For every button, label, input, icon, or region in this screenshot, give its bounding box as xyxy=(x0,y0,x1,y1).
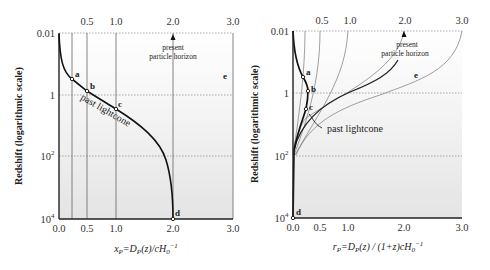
right-point-b xyxy=(306,89,309,92)
right-ytick-100-exp: 2 xyxy=(285,149,289,157)
left-xtick-0.5: 0.5 xyxy=(80,223,93,234)
left-label-a: a xyxy=(75,69,80,79)
left-ytick-1: 1 xyxy=(50,90,55,101)
right-ytick-1: 1 xyxy=(284,88,289,99)
right-xtick-2.0: 2.0 xyxy=(397,222,410,233)
right-annotation-particle-horizon: particle horizon xyxy=(381,49,429,58)
right-xtick-0.0: 0.0 xyxy=(286,222,299,233)
right-ytick-10000-exp: 4 xyxy=(285,211,289,219)
right-xtick-0.5: 0.5 xyxy=(313,222,326,233)
right-top-tick-1.0: 1.0 xyxy=(343,15,356,26)
right-label-d: d xyxy=(296,207,301,217)
right-annotation-present: present xyxy=(396,40,419,49)
left-xtick-0.0: 0.0 xyxy=(52,223,65,234)
right-ytick-100: 10 xyxy=(275,151,286,162)
left-x-axis-label: xP=DP(z)/cH0−1 xyxy=(113,242,178,256)
right-ytick-0.01: 0.01 xyxy=(271,26,289,37)
right-point-a xyxy=(301,75,304,78)
right-label-e: e xyxy=(414,70,418,80)
left-ytick-10000: 10 xyxy=(41,214,52,225)
right-label-a: a xyxy=(306,67,311,77)
left-label-b: b xyxy=(90,81,95,91)
left-ytick-100: 10 xyxy=(41,151,52,162)
left-label-c: c xyxy=(118,99,122,109)
left-top-tick-2.0: 2.0 xyxy=(166,16,179,27)
left-top-tick-3.0: 3.0 xyxy=(226,16,239,27)
left-xtick-1.0: 1.0 xyxy=(109,223,122,234)
right-label-c: c xyxy=(309,102,313,112)
left-label-e: e xyxy=(223,71,227,81)
left-point-a xyxy=(70,77,73,80)
right-x-axis-label: rP=DP(z) / (1+z)cH0−1 xyxy=(333,240,423,254)
left-plot-background xyxy=(59,33,233,219)
right-top-tick-2.0: 2.0 xyxy=(398,15,411,26)
right-y-axis-label: Redshift (logarithmic scale) xyxy=(249,65,261,183)
left-y-axis-label: Redshift (logarithmic scale) xyxy=(13,67,25,185)
right-point-c xyxy=(304,107,307,110)
right-point-d xyxy=(291,216,294,219)
right-xtick-1.0: 1.0 xyxy=(341,222,354,233)
right-chart: a b c d e present particle horizon past … xyxy=(249,15,469,254)
left-top-tick-0.5: 0.5 xyxy=(80,16,93,27)
left-annotation-present: present xyxy=(162,43,185,52)
left-xtick-3.0: 3.0 xyxy=(226,223,239,234)
left-chart: a b c d e present particle horizon past … xyxy=(13,16,240,256)
right-xtick-3.0: 3.0 xyxy=(455,222,468,233)
right-annotation-past-lightcone: past lightcone xyxy=(327,123,383,134)
left-ytick-0.01: 0.01 xyxy=(37,28,55,39)
figure: a b c d e present particle horizon past … xyxy=(0,0,490,270)
left-xtick-2.0: 2.0 xyxy=(166,223,179,234)
right-label-b: b xyxy=(311,84,316,94)
right-ytick-10000: 10 xyxy=(275,213,286,224)
right-top-tick-3.0: 3.0 xyxy=(455,15,468,26)
right-top-tick-0.5: 0.5 xyxy=(315,15,328,26)
left-label-d: d xyxy=(175,208,180,218)
left-annotation-particle-horizon: particle horizon xyxy=(149,52,197,61)
left-ytick-10000-exp: 4 xyxy=(51,212,55,220)
left-ytick-100-exp: 2 xyxy=(51,149,55,157)
left-top-tick-1.0: 1.0 xyxy=(109,16,122,27)
